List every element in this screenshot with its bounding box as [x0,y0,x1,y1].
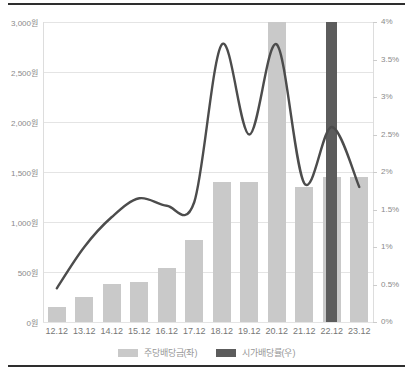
right-axis-tick [373,60,377,61]
right-axis-tick-label: 1% [381,242,411,251]
right-axis-tick-label: 2% [381,167,411,176]
legend-label: 주당배당금(좌) [144,346,198,359]
right-axis-tick [373,247,377,248]
bar-13.12 [75,297,93,322]
left-axis-tick-label: 3,000원 [2,17,38,28]
right-axis-tick [373,135,377,136]
left-axis-tick-label: 2,000원 [2,117,38,128]
legend-item-dividend-yield: 시가배당률(우) [216,346,296,359]
left-axis-tick-label: 1,000원 [2,217,38,228]
highlight-bar-22.12[interactable] [326,22,337,322]
bar-18.12 [213,182,231,322]
left-axis-tick-label: 2,500원 [2,67,38,78]
gridline [43,72,373,73]
right-axis-tick [373,322,377,323]
left-axis-line [43,22,44,322]
right-axis-tick [373,172,377,173]
right-axis-tick [373,285,377,286]
left-axis-tick-label: 1,500원 [2,167,38,178]
line-series-swatch [216,349,236,357]
gridline [43,172,373,173]
gridline [43,22,373,23]
bar-23.12 [350,177,368,322]
bottom-divider [8,365,405,367]
left-axis-tick-label: 500원 [2,267,38,278]
bar-17.12 [185,240,203,322]
legend-item-dividend-per-share: 주당배당금(좌) [118,346,198,359]
gridline [43,122,373,123]
right-axis-tick-label: 3.5% [381,55,411,64]
legend-label: 시가배당률(우) [242,346,296,359]
right-axis-tick [373,210,377,211]
right-axis-tick-label: 1.5% [381,205,411,214]
bar-series-swatch [118,349,138,357]
bar-19.12 [240,182,258,322]
right-axis-tick-label: 0.5% [381,280,411,289]
right-axis-tick [373,97,377,98]
bar-15.12 [130,282,148,322]
gridline [43,322,373,323]
bar-12.12 [48,307,66,322]
left-axis-tick-label: 0원 [2,317,38,328]
bar-16.12 [158,268,176,322]
bar-20.12 [268,22,286,322]
right-axis-tick-label: 2.5% [381,130,411,139]
right-axis-tick-label: 0% [381,317,411,326]
bar-21.12 [295,187,313,322]
dividend-chart: 3,000원2,500원2,000원1,500원1,000원500원0원4%3.… [0,0,413,374]
right-axis-tick-label: 3% [381,92,411,101]
x-axis-label-23.12: 23.12 [341,326,377,336]
right-axis-tick-label: 4% [381,17,411,26]
right-axis-tick [373,22,377,23]
chart-legend: 주당배당금(좌) 시가배당률(우) [0,346,413,359]
line-path [57,44,360,289]
bar-14.12 [103,284,121,322]
